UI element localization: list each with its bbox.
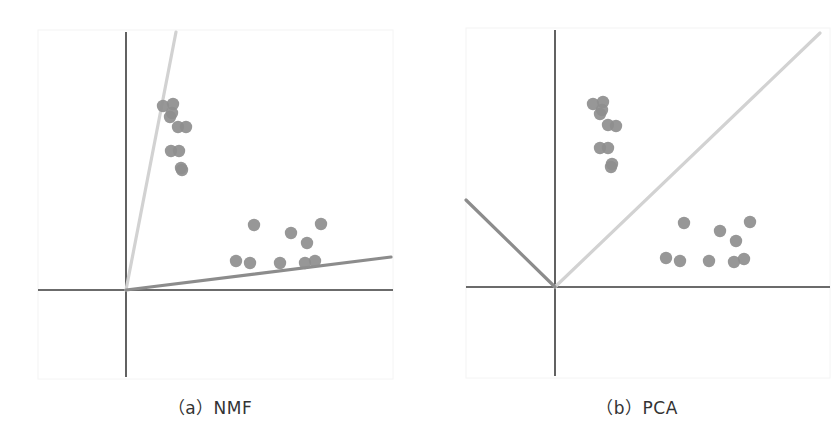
nmf-data-point (230, 255, 242, 267)
pca-basis-vector-2 (466, 200, 555, 287)
nmf-data-point (274, 257, 286, 269)
pca-data-point (594, 108, 606, 120)
nmf-data-point (173, 145, 185, 157)
pca-data-point (606, 158, 618, 170)
nmf-data-point (315, 218, 327, 230)
pca-data-point (744, 216, 756, 228)
pca-data-point (602, 142, 614, 154)
nmf-basis-vector-1 (126, 32, 176, 290)
nmf-data-point (248, 219, 260, 231)
nmf-data-point (244, 257, 256, 269)
caption-pca: （b）PCA (537, 394, 737, 419)
nmf-data-point (309, 255, 321, 267)
nmf-basis-vector-2 (126, 257, 391, 290)
pca-data-point (674, 255, 686, 267)
caption-nmf: （a）NMF (110, 394, 310, 419)
scatter-plots (0, 0, 839, 445)
pca-frame (466, 28, 830, 378)
nmf-data-point (175, 162, 187, 174)
figure: （a）NMF （b）PCA (0, 0, 839, 445)
pca-data-point (678, 217, 690, 229)
pca-data-point (714, 225, 726, 237)
pca-basis-vector-1 (555, 33, 820, 287)
nmf-data-point (180, 121, 192, 133)
pca-data-point (660, 252, 672, 264)
nmf-data-point (285, 227, 297, 239)
pca-data-point (738, 253, 750, 265)
pca-data-point (730, 235, 742, 247)
nmf-data-point (164, 111, 176, 123)
pca-data-point (610, 120, 622, 132)
nmf-frame (38, 30, 393, 379)
pca-data-point (703, 255, 715, 267)
nmf-data-point (301, 237, 313, 249)
